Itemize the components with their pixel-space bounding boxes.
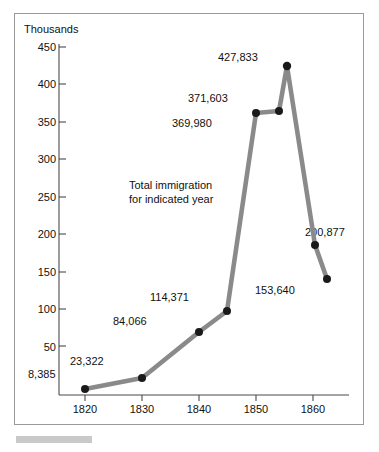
x-tick-marks [85, 395, 313, 401]
data-point-1840 [195, 328, 203, 336]
data-point-1850 [252, 109, 260, 117]
data-point-1854 [275, 107, 283, 115]
data-point-1859 [311, 241, 319, 249]
immigration-trend-line [85, 66, 327, 389]
plot-area [0, 0, 379, 452]
immigration-line-chart: Thousands 450 400 350 300 250 200 150 10… [0, 0, 379, 452]
y-tick-marks [59, 47, 66, 346]
footer-gray-bar [16, 436, 92, 443]
data-point-1820 [81, 385, 89, 393]
data-point-1860 [323, 275, 331, 283]
data-point-1857 [283, 62, 291, 70]
data-point-1830 [138, 374, 146, 382]
data-point-1845 [223, 307, 231, 315]
